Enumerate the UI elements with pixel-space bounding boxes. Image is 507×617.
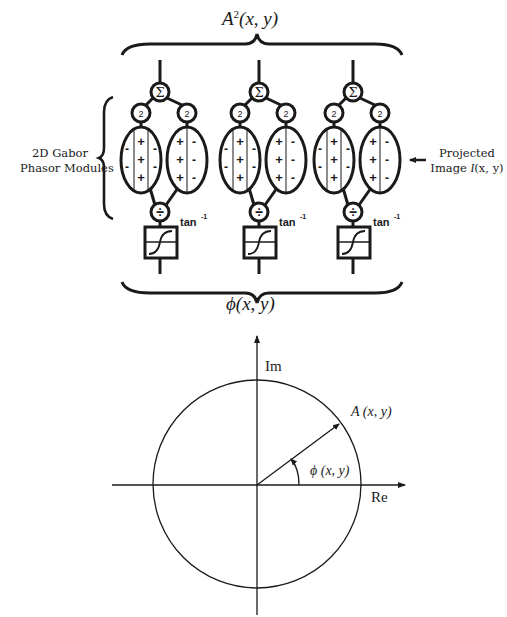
svg-text:+: +: [330, 170, 338, 185]
im-axis-label: Im: [265, 358, 282, 374]
svg-text:2: 2: [237, 109, 242, 119]
phase-angle-label: ϕ (x, y): [310, 463, 350, 479]
svg-text:-: -: [346, 160, 350, 174]
svg-text:+: +: [137, 170, 145, 185]
svg-text:2: 2: [138, 109, 143, 119]
svg-text:tan: tan: [279, 216, 296, 228]
svg-text:-: -: [291, 135, 295, 149]
svg-text:-: -: [192, 135, 196, 149]
figure-canvas: A2(x, y) ϕ(x, y) 2D Gabor Phasor Modules…: [0, 0, 507, 617]
phase-angle-arc: [291, 459, 299, 485]
svg-text:+: +: [236, 152, 244, 167]
re-axis-label: Re: [371, 489, 388, 505]
svg-text:-1: -1: [300, 213, 306, 220]
svg-text:tan: tan: [180, 216, 197, 228]
svg-text:+: +: [137, 152, 145, 167]
phasor-plot: [112, 336, 405, 615]
svg-text:+: +: [275, 152, 283, 167]
svg-text:2: 2: [331, 109, 336, 119]
svg-text:-: -: [318, 142, 322, 156]
svg-text:+: +: [236, 134, 244, 149]
svg-text:÷: ÷: [349, 204, 357, 220]
svg-text:-: -: [346, 142, 350, 156]
svg-text:-: -: [224, 142, 228, 156]
svg-text:-: -: [192, 153, 196, 167]
svg-text:+: +: [176, 152, 184, 167]
svg-text:-: -: [125, 160, 129, 174]
svg-text:Σ: Σ: [348, 85, 357, 100]
svg-text:-: -: [224, 160, 228, 174]
svg-text:+: +: [369, 170, 377, 185]
svg-text:+: +: [236, 170, 244, 185]
svg-text:Σ: Σ: [254, 85, 263, 100]
top-brace: [122, 34, 402, 55]
svg-text:+: +: [275, 134, 283, 149]
amplitude-label: A (x, y): [350, 404, 392, 420]
svg-text:÷: ÷: [255, 204, 263, 220]
svg-text:2: 2: [184, 109, 189, 119]
svg-text:2: 2: [377, 109, 382, 119]
left-brace: [99, 97, 113, 219]
svg-text:+: +: [369, 152, 377, 167]
svg-text:+: +: [330, 152, 338, 167]
svg-text:-: -: [252, 142, 256, 156]
svg-text:-: -: [153, 160, 157, 174]
svg-text:2: 2: [283, 109, 288, 119]
svg-text:+: +: [275, 170, 283, 185]
svg-text:+: +: [330, 134, 338, 149]
svg-text:-1: -1: [394, 213, 400, 220]
svg-text:÷: ÷: [156, 204, 164, 220]
svg-text:+: +: [369, 134, 377, 149]
svg-text:-: -: [125, 142, 129, 156]
svg-text:-: -: [153, 142, 157, 156]
svg-text:+: +: [176, 170, 184, 185]
svg-text:-: -: [318, 160, 322, 174]
bottom-brace: [122, 282, 402, 303]
sum-symbol: Σ: [155, 85, 164, 100]
svg-text:tan: tan: [373, 216, 390, 228]
svg-text:+: +: [176, 134, 184, 149]
svg-text:-: -: [385, 135, 389, 149]
svg-text:-: -: [385, 153, 389, 167]
svg-text:-1: -1: [201, 213, 207, 220]
svg-text:-: -: [291, 171, 295, 185]
svg-text:-: -: [192, 171, 196, 185]
svg-text:-: -: [291, 153, 295, 167]
diagram-graphics: Σ 2 2 - - + + + - - + + + - - - ÷ tan: [0, 0, 507, 617]
svg-text:-: -: [385, 171, 389, 185]
svg-text:-: -: [252, 160, 256, 174]
svg-text:+: +: [137, 134, 145, 149]
